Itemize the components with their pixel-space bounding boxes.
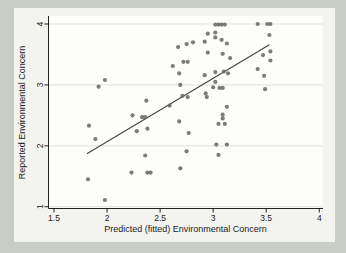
data-point: [203, 73, 207, 77]
data-point: [256, 22, 260, 26]
data-point: [181, 60, 185, 64]
data-point: [213, 80, 217, 84]
data-point: [185, 42, 189, 46]
data-point: [129, 171, 133, 175]
data-point: [144, 99, 148, 103]
data-point: [221, 52, 225, 56]
y-axis-title: Reported Environmental Concern: [17, 46, 27, 180]
y-tick-label: 1: [35, 204, 45, 209]
scatter-plot: 1234 1.522.533.54 Predicted (fitted) Env…: [0, 0, 346, 253]
data-point: [93, 137, 97, 141]
stata-graph-window: 1234 1.522.533.54 Predicted (fitted) Env…: [0, 0, 346, 253]
data-point: [223, 23, 227, 27]
data-point: [171, 64, 175, 68]
data-point: [87, 124, 91, 128]
data-point: [256, 67, 260, 71]
data-point: [225, 41, 229, 45]
data-point: [177, 119, 181, 123]
data-point: [168, 104, 172, 108]
data-point: [205, 95, 209, 99]
data-point: [267, 33, 271, 37]
data-point: [216, 153, 220, 157]
data-point: [135, 129, 139, 133]
data-point: [263, 87, 267, 91]
data-point: [187, 131, 191, 135]
data-point: [222, 69, 226, 73]
y-tick-label: 2: [35, 143, 45, 148]
data-point: [177, 71, 181, 75]
data-point: [221, 116, 225, 120]
data-point: [103, 198, 107, 202]
data-point: [203, 40, 207, 44]
data-point: [225, 143, 229, 147]
data-point: [213, 35, 217, 39]
x-tick-label: 2.5: [154, 213, 166, 223]
data-point: [103, 78, 107, 82]
data-point: [143, 153, 147, 157]
data-point: [185, 149, 189, 153]
data-point: [191, 40, 195, 44]
data-point: [214, 143, 218, 147]
y-tick-label: 3: [35, 82, 45, 87]
y-tick-label: 4: [35, 21, 45, 26]
data-point: [268, 58, 272, 62]
data-point: [268, 22, 272, 26]
data-point: [223, 122, 227, 126]
data-point: [178, 83, 182, 87]
data-point: [221, 113, 225, 117]
data-point: [204, 91, 208, 95]
data-point: [268, 49, 272, 53]
data-point: [186, 60, 190, 64]
data-point: [226, 71, 230, 75]
data-point: [178, 166, 182, 170]
x-tick-label: 3: [211, 213, 216, 223]
data-point: [130, 113, 134, 117]
data-point: [261, 53, 265, 57]
data-point: [143, 115, 147, 119]
data-point: [228, 56, 232, 60]
data-point: [180, 94, 184, 98]
data-point: [145, 127, 149, 131]
x-tick-label: 3.5: [260, 213, 272, 223]
data-point: [211, 85, 215, 89]
data-point: [213, 30, 217, 34]
data-point: [220, 38, 224, 42]
data-point: [262, 74, 266, 78]
data-point: [221, 86, 225, 90]
x-tick-label: 2: [105, 213, 110, 223]
x-tick-label: 4: [317, 213, 322, 223]
data-point: [225, 105, 229, 109]
data-point: [206, 32, 210, 36]
x-axis-title: Predicted (fitted) Environmental Concern: [104, 224, 267, 234]
data-point: [186, 95, 190, 99]
data-point: [213, 70, 217, 74]
data-point: [176, 45, 180, 49]
data-point: [97, 85, 101, 89]
data-point: [216, 122, 220, 126]
x-tick-label: 1.5: [48, 213, 60, 223]
data-point: [149, 171, 153, 175]
data-point: [206, 51, 210, 55]
data-point: [86, 177, 90, 181]
